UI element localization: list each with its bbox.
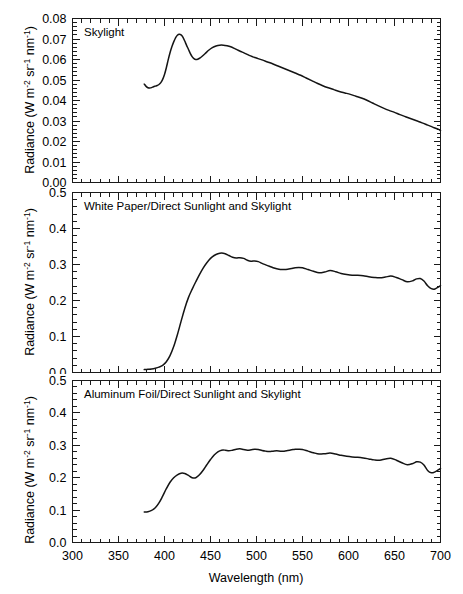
- x-axis-title: Wavelength (nm): [209, 571, 304, 585]
- panel-aluminum-foil: Radiance (W m-2 sr-1 nm-1) 0.00.10.20.30…: [0, 372, 463, 594]
- x-ticklabel: 550: [292, 549, 313, 563]
- y-ticklabel: 0.4: [49, 406, 66, 420]
- y-ticklabel: 0.3: [49, 439, 66, 453]
- y-ticklabel: 0.04: [42, 94, 66, 108]
- y-ticks-white-paper: [73, 193, 441, 373]
- panel-aluminum-foil-plot: Radiance (W m-2 sr-1 nm-1) 0.00.10.20.30…: [0, 372, 463, 594]
- y-ticklabels-skylight: 0.000.010.020.030.040.050.060.070.08: [42, 12, 66, 190]
- svg-text:Radiance (W m-2 sr-1 nm-1): Radiance (W m-2 sr-1 nm-1): [22, 26, 37, 174]
- svg-text:Radiance (W m-2 sr-1 nm-1): Radiance (W m-2 sr-1 nm-1): [22, 208, 37, 356]
- y-axis-title-aluminum-foil: Radiance (W m-2 sr-1 nm-1): [22, 396, 37, 544]
- y-ticklabel: 0.5: [49, 374, 66, 388]
- y-ticklabels-aluminum-foil: 0.00.10.20.30.40.5: [49, 374, 66, 550]
- panel-title-white-paper: White Paper/Direct Sunlight and Skylight: [84, 200, 292, 212]
- x-ticklabels: 300350400450500550600650700: [62, 549, 451, 563]
- figure-container: Radiance (W m-2 sr-1 nm-1) 0.000.010.020…: [0, 0, 463, 594]
- x-ticklabel: 300: [62, 549, 83, 563]
- x-ticklabel: 350: [108, 549, 129, 563]
- x-ticks-aluminum-foil: [73, 381, 441, 543]
- plot-frame-white-paper: [73, 193, 441, 373]
- y-ticklabel: 0.3: [49, 258, 66, 272]
- y-ticklabel: 0.05: [42, 74, 66, 88]
- svg-text:Radiance (W m-2 sr-1 nm-1): Radiance (W m-2 sr-1 nm-1): [22, 396, 37, 544]
- y-axis-title-skylight: Radiance (W m-2 sr-1 nm-1): [22, 26, 37, 174]
- y-ticks-aluminum-foil: [73, 381, 441, 543]
- y-ticklabel: 0.5: [49, 186, 66, 200]
- y-ticklabel: 0.2: [49, 294, 66, 308]
- y-ticklabel: 0.0: [49, 536, 66, 550]
- x-ticks-skylight: [73, 19, 441, 183]
- y-ticklabel: 0.07: [42, 33, 66, 47]
- x-ticklabel: 700: [430, 549, 451, 563]
- plot-frame-aluminum-foil: [73, 381, 441, 543]
- y-ticklabel: 0.03: [42, 115, 66, 129]
- x-ticklabel: 650: [384, 549, 405, 563]
- y-ticklabel: 0.06: [42, 53, 66, 67]
- x-ticks-white-paper: [73, 193, 441, 373]
- y-ticklabel: 0.01: [42, 156, 66, 170]
- y-ticks-skylight: [73, 19, 441, 183]
- curve-skylight: [144, 34, 440, 130]
- plot-frame-skylight: [73, 19, 441, 183]
- x-ticklabel: 450: [200, 549, 221, 563]
- y-ticklabels-white-paper: 0.00.10.20.30.40.5: [49, 186, 66, 374]
- panel-skylight-plot: Radiance (W m-2 sr-1 nm-1) 0.000.010.020…: [0, 0, 463, 192]
- panel-title-skylight: Skylight: [84, 26, 125, 38]
- y-ticklabel: 0.02: [42, 135, 66, 149]
- y-ticklabel: 0.4: [49, 222, 66, 236]
- x-ticklabel: 500: [246, 549, 267, 563]
- y-axis-title-white-paper: Radiance (W m-2 sr-1 nm-1): [22, 208, 37, 356]
- curve-aluminum-foil: [144, 449, 440, 512]
- y-ticklabel: 0.1: [49, 504, 66, 518]
- y-ticklabel: 0.1: [49, 330, 66, 344]
- x-ticklabel: 600: [338, 549, 359, 563]
- panel-skylight: Radiance (W m-2 sr-1 nm-1) 0.000.010.020…: [0, 0, 463, 192]
- panel-white-paper-plot: Radiance (W m-2 sr-1 nm-1) 0.00.10.20.30…: [0, 182, 463, 374]
- panel-title-aluminum-foil: Aluminum Foil/Direct Sunlight and Skylig…: [84, 388, 301, 400]
- curve-white-paper: [144, 253, 440, 370]
- panel-white-paper: Radiance (W m-2 sr-1 nm-1) 0.00.10.20.30…: [0, 182, 463, 374]
- y-ticklabel: 0.08: [42, 12, 66, 26]
- x-ticklabel: 400: [154, 549, 175, 563]
- y-ticklabel: 0.2: [49, 471, 66, 485]
